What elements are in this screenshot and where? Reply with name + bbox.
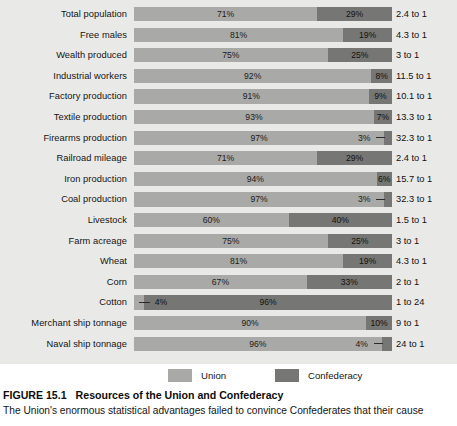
bar-row-ratio: 4.3 to 1 [396,251,427,272]
bar-row-label: Merchant ship tonnage [0,313,127,334]
caption-body: The Union's enormous statistical advanta… [3,404,455,418]
bar-row-label: Free males [0,25,127,46]
bar-segment-confederacy [366,316,392,330]
bar-row-label: Coal production [0,189,127,210]
bar-row: Wheat81%19%4.3 to 1 [0,251,457,272]
legend-label-confederacy: Confederacy [308,370,362,381]
bar-row-ratio: 2.4 to 1 [396,4,427,25]
bar-row: Coal production97%3%32.3 to 1 [0,189,457,210]
bar-row: Firearms production97%3%32.3 to 1 [0,128,457,149]
bar-row-ratio: 13.3 to 1 [396,107,432,128]
bar-segment-union [134,69,371,83]
bar-segment-confederacy [369,89,392,103]
bar-row-label: Railroad mileage [0,148,127,169]
bar-row-label: Wealth produced [0,45,127,66]
chart-plot-area: Total population71%29%2.4 to 1Free males… [0,0,457,364]
bar-segment-confederacy [343,28,392,42]
bar-segment-union [134,89,369,103]
bar-row-ratio: 1 to 24 [396,292,424,313]
bar-segment-confederacy [328,48,393,62]
bar-segment-union [134,254,343,268]
bar-track: 71%29% [134,7,392,21]
bar-segment-union [134,151,317,165]
bar-row: Cotton4%96%1 to 24 [0,292,457,313]
bar-row-ratio: 10.1 to 1 [396,86,432,107]
bar-track: 90%10% [134,316,392,330]
bar-track: 92%8% [134,69,392,83]
bar-row: Iron production94%6%15.7 to 1 [0,169,457,190]
bar-segment-union [134,48,328,62]
bar-row: Naval ship tonnage96%4%24 to 1 [0,334,457,355]
bar-segment-confederacy [371,69,392,83]
bar-row-ratio: 32.3 to 1 [396,128,432,149]
bar-row: Free males81%19%4.3 to 1 [0,25,457,46]
bar-row-ratio: 24 to 1 [396,334,424,355]
bar-row-label: Cotton [0,292,127,313]
bar-track: 93%7% [134,110,392,124]
bar-segment-confederacy [374,110,392,124]
bar-segment-confederacy [377,172,392,186]
bar-row-ratio: 1.5 to 1 [396,210,427,231]
leader-line-union [139,302,150,303]
bar-row-ratio: 2.4 to 1 [396,148,427,169]
leader-line-confederacy [376,199,385,200]
bar-row-label: Farm acreage [0,231,127,252]
bar-row: Farm acreage75%25%3 to 1 [0,231,457,252]
bar-segment-confederacy [384,192,392,206]
bar-track: 97%3% [134,192,392,206]
bar-segment-confederacy [328,234,393,248]
bar-track: 75%25% [134,234,392,248]
bar-track: 4%96% [134,295,392,309]
bar-segment-confederacy [144,295,392,309]
bar-row-ratio: 2 to 1 [396,272,419,293]
bar-track: 81%19% [134,254,392,268]
bar-segment-confederacy [307,275,392,289]
bar-segment-union [134,172,377,186]
bar-row: Factory production91%9%10.1 to 1 [0,86,457,107]
bar-track: 97%3% [134,131,392,145]
bar-segment-union [134,192,384,206]
bar-segment-union [134,131,384,145]
bar-row-label: Livestock [0,210,127,231]
bar-track: 96%4% [134,337,392,351]
bar-row-label: Iron production [0,169,127,190]
bar-track: 94%6% [134,172,392,186]
bar-row-label: Total population [0,4,127,25]
bar-segment-confederacy [384,131,392,145]
bar-segment-union [134,316,366,330]
bar-row: Wealth produced75%25%3 to 1 [0,45,457,66]
leader-line-confederacy [374,343,383,344]
caption-figure-number: FIGURE 15.1 [3,389,67,401]
bar-row: Corn67%33%2 to 1 [0,272,457,293]
legend-label-union: Union [201,370,226,381]
bar-track: 75%25% [134,48,392,62]
legend-item-union: Union [168,364,226,386]
bar-row-label: Corn [0,272,127,293]
bar-row: Railroad mileage71%29%2.4 to 1 [0,148,457,169]
bar-row-ratio: 15.7 to 1 [396,169,432,190]
bar-row-ratio: 32.3 to 1 [396,189,432,210]
bar-track: 60%40% [134,213,392,227]
legend-item-confederacy: Confederacy [275,364,362,386]
legend-swatch-union [168,369,192,382]
bar-row-ratio: 11.5 to 1 [396,66,432,87]
bar-track: 67%33% [134,275,392,289]
bar-row-label: Wheat [0,251,127,272]
bar-segment-union [134,7,317,21]
bar-row-label: Industrial workers [0,66,127,87]
bar-row-label: Factory production [0,86,127,107]
bar-row-label: Firearms production [0,128,127,149]
bar-track: 91%9% [134,89,392,103]
bar-row: Total population71%29%2.4 to 1 [0,4,457,25]
bar-row-ratio: 3 to 1 [396,231,419,252]
bar-segment-union [134,234,328,248]
caption-title-line: FIGURE 15.1Resources of the Union and Co… [3,388,455,402]
figure-caption: FIGURE 15.1Resources of the Union and Co… [3,388,455,418]
bar-row-label: Naval ship tonnage [0,334,127,355]
bar-row-ratio: 4.3 to 1 [396,25,427,46]
caption-title: Resources of the Union and Confederacy [76,389,284,401]
figure-15-1: Total population71%29%2.4 to 1Free males… [0,0,457,426]
bar-segment-union [134,337,382,351]
legend-swatch-confederacy [275,369,299,382]
bar-segment-union [134,213,289,227]
